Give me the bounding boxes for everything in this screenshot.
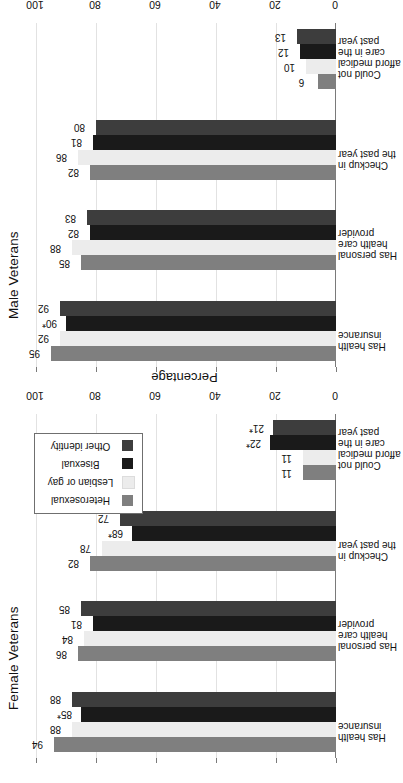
category-label: Checkup inthe past year bbox=[336, 511, 396, 571]
legend-swatch bbox=[122, 476, 135, 489]
legend-entry-other-identity[interactable]: Other identity bbox=[42, 440, 133, 452]
legend-entry-heterosexual[interactable]: Heterosexual bbox=[42, 495, 133, 507]
category-label-line: afford medical bbox=[338, 449, 401, 460]
bar-heterosexual[interactable] bbox=[81, 255, 336, 270]
chart-area-female: Female Veterans 020406080100Percentage94… bbox=[0, 391, 403, 782]
bar-value-label: 11 bbox=[281, 452, 291, 463]
category-label-line: insurance bbox=[338, 721, 381, 732]
value-axis-tick-label: 20 bbox=[263, 390, 287, 402]
category-label: Has personalhealth careprovider bbox=[336, 210, 396, 270]
legend-entry-lesbian-or-gay[interactable]: Lesbian or gay bbox=[42, 476, 135, 489]
bar-bisexual[interactable] bbox=[93, 135, 336, 150]
bar-heterosexual[interactable] bbox=[90, 165, 336, 180]
bar-other-identity[interactable] bbox=[72, 692, 336, 707]
bar-lesbian-or-gay[interactable] bbox=[306, 59, 336, 74]
category-label-line: past year bbox=[338, 36, 379, 47]
series-legend: HeterosexualLesbian or gayBisexualOther … bbox=[34, 433, 143, 514]
bar-bisexual[interactable] bbox=[90, 225, 336, 240]
axis-tick-mark bbox=[96, 367, 97, 372]
rotated-plot-wrapper-female: Female Veterans 020406080100Percentage94… bbox=[0, 391, 403, 782]
category-label-line: care in the bbox=[338, 47, 385, 58]
bar-lesbian-or-gay[interactable] bbox=[84, 631, 336, 646]
bar-value-label: 80 bbox=[74, 122, 85, 133]
bar-group: 827868*72 bbox=[36, 511, 336, 571]
bar-bisexual[interactable] bbox=[81, 707, 336, 722]
legend-entry-bisexual[interactable]: Bisexual bbox=[42, 458, 133, 470]
category-label-line: Checkup in bbox=[338, 551, 388, 562]
bar-value-label: 78 bbox=[80, 543, 91, 554]
panel-female-veterans: Female Veterans 020406080100Percentage94… bbox=[0, 391, 403, 782]
bar-other-identity[interactable] bbox=[297, 29, 336, 44]
bar-slot: 85 bbox=[36, 601, 336, 616]
bar-lesbian-or-gay[interactable] bbox=[72, 722, 336, 737]
bar-bisexual[interactable] bbox=[132, 526, 336, 541]
bar-heterosexual[interactable] bbox=[318, 74, 336, 89]
bar-slot: 85 bbox=[36, 255, 336, 270]
bar-value-label: 88 bbox=[50, 242, 61, 253]
bar-value-label: 82 bbox=[68, 167, 79, 178]
bar-lesbian-or-gay[interactable] bbox=[303, 450, 336, 465]
category-label: Could notafford medicalcare in thepast y… bbox=[336, 420, 396, 480]
axis-tick-mark bbox=[36, 758, 37, 763]
bar-other-identity[interactable] bbox=[96, 120, 336, 135]
axis-tick-mark bbox=[36, 367, 37, 372]
bar-heterosexual[interactable] bbox=[303, 465, 336, 480]
bar-value-label: 12 bbox=[278, 46, 289, 57]
axis-tick-mark bbox=[96, 758, 97, 763]
bar-group: 85888283 bbox=[36, 210, 336, 270]
category-label-line: health care bbox=[338, 239, 387, 250]
legend-label: Bisexual bbox=[61, 459, 99, 470]
value-axis-tick-label: 60 bbox=[143, 390, 167, 402]
bar-value-label: 21* bbox=[249, 422, 264, 433]
category-label: Has healthinsurance bbox=[336, 692, 396, 752]
chart-area-male: Male Veterans 020406080100Percentage9592… bbox=[0, 0, 403, 391]
bar-other-identity[interactable] bbox=[60, 301, 336, 316]
bar-bisexual[interactable] bbox=[93, 616, 336, 631]
category-label-line: Has health bbox=[338, 732, 386, 743]
category-label-line: the past year bbox=[338, 540, 396, 551]
legend-label: Lesbian or gay bbox=[47, 477, 113, 488]
category-label-line: insurance bbox=[338, 330, 381, 341]
bar-slot: 88 bbox=[36, 692, 336, 707]
bar-slot: 92 bbox=[36, 331, 336, 346]
bar-value-label: 22* bbox=[246, 437, 261, 448]
bar-value-label: 90* bbox=[42, 318, 57, 329]
bar-lesbian-or-gay[interactable] bbox=[78, 150, 336, 165]
bar-slot: 10 bbox=[36, 59, 336, 74]
bar-group: 86848185 bbox=[36, 601, 336, 661]
bar-value-label: 6 bbox=[299, 76, 305, 87]
bar-heterosexual[interactable] bbox=[51, 346, 336, 361]
bar-heterosexual[interactable] bbox=[54, 737, 336, 752]
bar-bisexual[interactable] bbox=[66, 316, 336, 331]
category-label-line: past year bbox=[338, 427, 379, 438]
category-label-line: provider bbox=[338, 619, 374, 630]
category-label-line: provider bbox=[338, 228, 374, 239]
legend-label: Heterosexual bbox=[51, 495, 110, 506]
bar-value-label: 81 bbox=[71, 618, 82, 629]
bar-slot: 81 bbox=[36, 135, 336, 150]
bar-lesbian-or-gay[interactable] bbox=[102, 541, 336, 556]
bar-slot: 86 bbox=[36, 646, 336, 661]
legend-swatch bbox=[122, 459, 133, 470]
bar-slot: 86 bbox=[36, 150, 336, 165]
bar-slot: 80 bbox=[36, 120, 336, 135]
bar-group: 959290*92 bbox=[36, 301, 336, 361]
bar-heterosexual[interactable] bbox=[90, 556, 336, 571]
bar-group: 6101213 bbox=[36, 29, 336, 89]
bar-groups: 959290*9285888283828681806101213 bbox=[36, 23, 336, 367]
category-label-line: Has health bbox=[338, 341, 386, 352]
bar-bisexual[interactable] bbox=[300, 44, 336, 59]
bar-lesbian-or-gay[interactable] bbox=[72, 240, 336, 255]
bar-other-identity[interactable] bbox=[87, 210, 336, 225]
bar-bisexual[interactable] bbox=[270, 435, 336, 450]
bar-other-identity[interactable] bbox=[81, 601, 336, 616]
bar-slot: 81 bbox=[36, 616, 336, 631]
bar-slot: 12 bbox=[36, 44, 336, 59]
bar-other-identity[interactable] bbox=[273, 420, 336, 435]
bar-other-identity[interactable] bbox=[120, 511, 336, 526]
bar-lesbian-or-gay[interactable] bbox=[60, 331, 336, 346]
bar-heterosexual[interactable] bbox=[78, 646, 336, 661]
bar-group: 82868180 bbox=[36, 120, 336, 180]
category-label-line: health care bbox=[338, 630, 387, 641]
bar-value-label: 92 bbox=[38, 303, 49, 314]
